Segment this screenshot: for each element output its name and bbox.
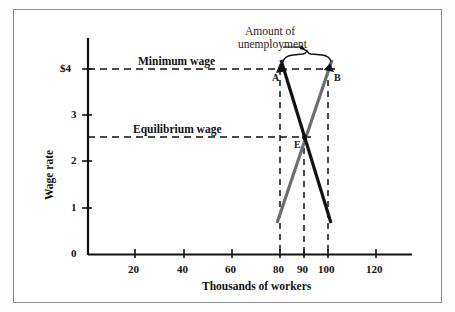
y-axis-title-wrap: Wage rate (31, 140, 45, 200)
y-tick-label-1: 1 (71, 202, 77, 213)
equilibrium-wage-label: Equilibrium wage (133, 124, 222, 136)
unemployment-annotation-line1: Amount of (245, 25, 295, 38)
y-tick-label-0: 0 (71, 248, 77, 259)
point-e-marker (302, 134, 307, 139)
point-b-marker (324, 63, 334, 72)
x-tick-label-60: 60 (225, 264, 236, 275)
y-tick-label-2: 2 (71, 155, 77, 166)
point-b-label: B (334, 73, 341, 83)
x-tick-label-40: 40 (177, 264, 188, 275)
x-tick-label-20: 20 (128, 264, 139, 275)
y-tick-label-4: $4 (60, 63, 71, 74)
point-a-label: A (272, 73, 279, 83)
minimum-wage-label: Minimum wage (138, 56, 215, 68)
x-tick-label-120: 120 (366, 264, 383, 275)
unemployment-brace (283, 51, 331, 62)
point-e-label: E (294, 140, 301, 150)
x-axis-title: Thousands of workers (202, 281, 311, 293)
unemployment-annotation-line2: unemployment (238, 38, 307, 51)
y-axis-title: Wage rate (43, 150, 55, 200)
x-tick-label-100: 100 (318, 264, 335, 275)
x-tick-label-80: 80 (273, 264, 284, 275)
figure-container: $4 3 2 1 0 20 40 60 80 90 100 120 Thousa… (0, 0, 455, 312)
y-tick-label-3: 3 (71, 109, 77, 120)
x-tick-label-90: 90 (297, 264, 308, 275)
